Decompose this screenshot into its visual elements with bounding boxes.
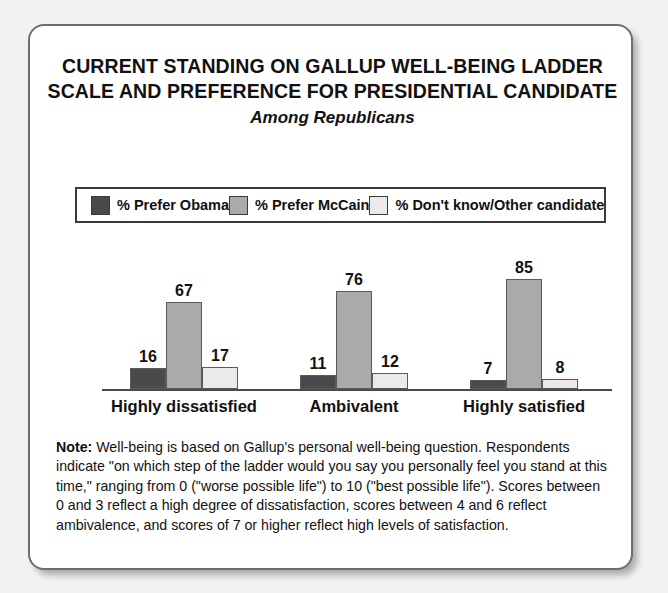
legend-label-obama: % Prefer Obama: [117, 197, 229, 213]
page-title-line-1: CURRENT STANDING ON GALLUP WELL-BEING LA…: [30, 54, 633, 79]
legend-swatch-icon-mccain: [229, 196, 248, 215]
bar-group: 117612Ambivalent: [300, 251, 408, 389]
legend-item-dontknow: % Don't know/Other candidate: [369, 196, 604, 215]
legend-label-dontknow: % Don't know/Other candidate: [395, 197, 604, 213]
bar-value-label: 8: [556, 359, 565, 377]
bar-value-label: 12: [381, 353, 399, 371]
x-axis-category-label: Highly dissatisfied: [111, 397, 257, 416]
bar-value-label: 76: [345, 271, 363, 289]
note-block: Note: Well-being is based on Gallup's pe…: [56, 438, 611, 535]
legend-item-mccain: % Prefer McCain: [229, 196, 369, 215]
chart-plot-area: 166717Highly dissatisfied117612Ambivalen…: [102, 251, 612, 391]
title-block: CURRENT STANDING ON GALLUP WELL-BEING LA…: [30, 54, 633, 128]
x-axis-category-label: Highly satisfied: [463, 397, 585, 416]
legend-swatch-icon-dontknow: [369, 196, 388, 215]
page-title-line-2: SCALE AND PREFERENCE FOR PRESIDENTIAL CA…: [30, 79, 633, 104]
x-axis-category-label: Ambivalent: [310, 397, 399, 416]
bar-value-label: 17: [211, 347, 229, 365]
bar-value-label: 7: [484, 360, 493, 378]
bar: 85: [506, 279, 542, 389]
bar: 17: [202, 367, 238, 389]
bar-group: 166717Highly dissatisfied: [130, 251, 238, 389]
bar: 8: [542, 379, 578, 389]
bar: 7: [470, 380, 506, 389]
bar-group: 7858Highly satisfied: [470, 251, 578, 389]
bar: 12: [372, 373, 408, 389]
figure-card: CURRENT STANDING ON GALLUP WELL-BEING LA…: [28, 24, 633, 570]
legend-swatch-icon-obama: [91, 196, 110, 215]
bar-value-label: 11: [310, 355, 327, 373]
bar: 16: [130, 368, 166, 389]
note-text: Well-being is based on Gallup's personal…: [56, 439, 607, 533]
bar-value-label: 85: [515, 259, 533, 277]
note-label: Note:: [56, 439, 92, 455]
x-axis-line: [102, 389, 612, 391]
legend-item-obama: % Prefer Obama: [91, 196, 229, 215]
bar: 67: [166, 302, 202, 389]
bar-value-label: 67: [175, 282, 193, 300]
bar: 76: [336, 291, 372, 389]
chart-legend: % Prefer Obama % Prefer McCain % Don't k…: [75, 187, 606, 223]
page-subtitle: Among Republicans: [30, 108, 633, 128]
legend-label-mccain: % Prefer McCain: [255, 197, 369, 213]
bar-value-label: 16: [139, 348, 157, 366]
bar: 11: [300, 375, 336, 389]
